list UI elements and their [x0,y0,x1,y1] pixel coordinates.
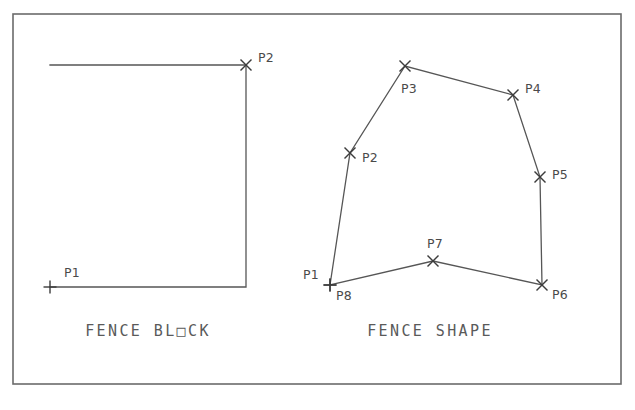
point-label-p6: P6 [552,287,568,302]
fence-shape-point-p4: P4 [508,81,541,101]
point-label-p1: P1 [64,265,80,280]
point-label-p3: P3 [401,81,417,96]
fence-shape-point-p6: P6 [537,280,568,303]
fence-block-outline [50,65,246,287]
diagram-page: P1P2FENCE BL□CKP1P8P2P3P4P5P6P7FENCE SHA… [0,0,635,410]
point-label-p2: P2 [258,50,274,65]
point-label-p1: P1 [303,267,319,282]
point-label-p5: P5 [552,167,568,182]
point-label-p4: P4 [525,81,541,96]
fence-diagram-svg: P1P2FENCE BL□CKP1P8P2P3P4P5P6P7FENCE SHA… [0,0,635,410]
figure-fence-shape: P1P8P2P3P4P5P6P7FENCE SHAPE [303,61,568,341]
fence-block-point-p1: P1 [44,265,80,294]
point-label-p7: P7 [427,236,443,251]
fence-shape-point-p3: P3 [400,61,417,97]
fence-shape-caption: FENCE SHAPE [367,322,493,340]
fence-shape-point-p8: P8 [324,279,352,304]
fence-shape-outline [330,66,542,285]
figure-fence-block: P1P2FENCE BL□CK [44,50,274,340]
point-label-p2: P2 [362,150,378,165]
point-label-p8: P8 [336,288,352,303]
fence-block-caption: FENCE BL□CK [85,322,211,340]
figures-layer: P1P2FENCE BL□CKP1P8P2P3P4P5P6P7FENCE SHA… [44,50,568,340]
